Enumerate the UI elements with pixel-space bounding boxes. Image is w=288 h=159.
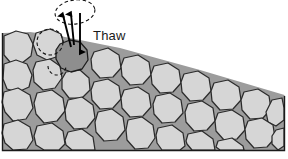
thaw-label: Thaw (93, 29, 126, 43)
clast (3, 60, 32, 92)
figure-canvas: Thaw (0, 0, 288, 159)
dashed-clast-outline-top (54, 0, 97, 27)
talus-thaw-diagram (0, 0, 288, 159)
thawed-clast (56, 40, 88, 72)
clast (4, 31, 33, 63)
thawed-clast-group (56, 40, 88, 72)
